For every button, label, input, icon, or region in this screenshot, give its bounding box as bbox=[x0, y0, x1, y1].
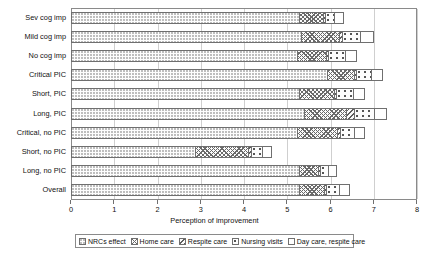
legend-swatch bbox=[179, 238, 186, 245]
bar-segment bbox=[353, 88, 365, 100]
x-axis-tick-label: 4 bbox=[234, 205, 254, 214]
x-axis-tick bbox=[200, 200, 201, 204]
bar-stack bbox=[71, 12, 343, 24]
chart-legend: NRCs effectHome careRespite careNursing … bbox=[75, 234, 354, 248]
bar-segment bbox=[339, 184, 350, 196]
y-axis-tick-label: No cog imp bbox=[0, 51, 66, 60]
x-axis-tick-label: 7 bbox=[364, 205, 384, 214]
bar-segment bbox=[342, 31, 361, 43]
bar-segment bbox=[299, 184, 325, 196]
bar-segment bbox=[334, 12, 344, 24]
bar-segment bbox=[371, 69, 383, 81]
y-axis-tick-label: Short, PIC bbox=[0, 89, 66, 98]
bar-segment bbox=[356, 69, 371, 81]
bar-segment bbox=[299, 88, 334, 100]
y-axis-tick-label: Overall bbox=[0, 185, 66, 194]
bar-stack bbox=[71, 184, 349, 196]
legend-item: Day care, respite care bbox=[288, 238, 365, 245]
bar-segment bbox=[345, 50, 357, 62]
bar-stack bbox=[71, 88, 364, 100]
bar-segment bbox=[301, 31, 340, 43]
bar-segment bbox=[71, 108, 305, 120]
x-axis-title: Perception of improvement bbox=[0, 216, 429, 225]
bar-segment bbox=[328, 165, 337, 177]
legend-swatch bbox=[232, 238, 239, 245]
legend-label: Respite care bbox=[188, 238, 227, 245]
legend-swatch bbox=[79, 238, 86, 245]
bar-segment bbox=[328, 50, 345, 62]
bar-segment bbox=[340, 127, 355, 139]
x-axis-tick bbox=[157, 200, 158, 204]
bar-segment bbox=[354, 127, 366, 139]
bar-stack bbox=[71, 50, 356, 62]
bar-segment bbox=[71, 127, 298, 139]
x-axis-tick-label: 6 bbox=[321, 205, 341, 214]
legend-item: Home care bbox=[131, 238, 174, 245]
bar-segment bbox=[71, 31, 302, 43]
x-axis-tick-label: 5 bbox=[277, 205, 297, 214]
bar-segment bbox=[195, 146, 249, 158]
bar-segment bbox=[374, 108, 387, 120]
y-axis-tick-label: Long, PIC bbox=[0, 109, 66, 118]
x-axis-tick bbox=[286, 200, 287, 204]
y-axis-tick-label: Mild cog imp bbox=[0, 32, 66, 41]
x-axis-tick-label: 2 bbox=[148, 205, 168, 214]
bar-stack bbox=[71, 31, 373, 43]
x-axis-tick-label: 0 bbox=[61, 205, 81, 214]
x-axis-tick-label: 1 bbox=[104, 205, 124, 214]
x-axis-tick-label: 8 bbox=[407, 205, 427, 214]
bar-stack bbox=[71, 127, 364, 139]
bar-segment bbox=[71, 146, 196, 158]
x-axis-tick bbox=[113, 200, 114, 204]
x-axis-tick bbox=[330, 200, 331, 204]
x-axis-tick bbox=[416, 200, 417, 204]
legend-label: NRCs effect bbox=[88, 238, 126, 245]
x-axis-tick bbox=[373, 200, 374, 204]
bar-segment bbox=[71, 88, 300, 100]
y-axis-tick-label: Short, no PIC bbox=[0, 147, 66, 156]
legend-swatch bbox=[131, 238, 138, 245]
bar-segment bbox=[71, 69, 328, 81]
bar-segment bbox=[336, 88, 354, 100]
x-axis-tick-label: 3 bbox=[191, 205, 211, 214]
legend-item: Respite care bbox=[179, 238, 227, 245]
bar-segment bbox=[71, 165, 300, 177]
legend-item: Nursing visits bbox=[232, 238, 283, 245]
y-axis-tick-label: Sev cog imp bbox=[0, 13, 66, 22]
bar-segment bbox=[360, 31, 374, 43]
legend-item: NRCs effect bbox=[79, 238, 126, 245]
horizontal-stacked-bar-chart: Sev cog impMild cog impNo cog impCritica… bbox=[0, 0, 429, 261]
legend-label: Day care, respite care bbox=[297, 238, 365, 245]
y-axis-tick-label: Critical, no PIC bbox=[0, 128, 66, 137]
bar-segment bbox=[71, 50, 298, 62]
legend-swatch bbox=[288, 238, 295, 245]
legend-label: Home care bbox=[140, 238, 174, 245]
bar-segment bbox=[71, 184, 300, 196]
bar-stack bbox=[71, 69, 382, 81]
bar-stack bbox=[71, 165, 336, 177]
y-axis-tick-label: Long, no PIC bbox=[0, 166, 66, 175]
x-axis-tick bbox=[70, 200, 71, 204]
x-axis-tick bbox=[243, 200, 244, 204]
bar-stack bbox=[71, 108, 386, 120]
gridline bbox=[417, 9, 418, 199]
bar-segment bbox=[297, 50, 327, 62]
bar-stack bbox=[71, 146, 271, 158]
bar-segment bbox=[354, 108, 375, 120]
bar-segment bbox=[326, 184, 340, 196]
bar-segment bbox=[304, 108, 347, 120]
bar-segment bbox=[327, 69, 355, 81]
bar-segment bbox=[71, 12, 300, 24]
legend-label: Nursing visits bbox=[241, 238, 283, 245]
bar-segment bbox=[299, 165, 318, 177]
bar-segment bbox=[299, 12, 324, 24]
bar-segment bbox=[297, 127, 338, 139]
bar-segment bbox=[262, 146, 272, 158]
y-axis-tick-label: Critical PIC bbox=[0, 70, 66, 79]
